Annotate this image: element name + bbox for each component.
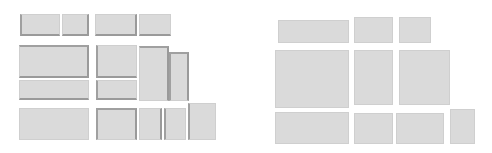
left-tile-2 [62, 14, 89, 36]
left-tile-12 [96, 108, 137, 140]
right-tile-9 [396, 113, 444, 144]
left-tile-4 [139, 14, 171, 36]
right-tile-7 [275, 112, 349, 144]
right-tile-6 [399, 50, 450, 105]
right-tile-10 [450, 109, 475, 144]
left-tile-14 [164, 108, 186, 140]
left-tile-1 [20, 14, 60, 36]
left-tile-13 [139, 108, 162, 140]
right-tile-5 [354, 50, 393, 105]
left-tile-3 [95, 14, 137, 36]
right-tile-1 [278, 20, 349, 43]
left-tile-11 [19, 108, 89, 140]
right-tile-3 [399, 17, 431, 43]
right-tile-8 [354, 113, 393, 144]
left-tile-7 [139, 46, 169, 101]
left-tile-10 [96, 80, 137, 100]
left-tile-6 [96, 45, 137, 78]
left-tile-5 [19, 45, 89, 78]
left-tile-9 [19, 80, 89, 100]
right-tile-4 [275, 50, 349, 108]
right-tile-2 [354, 17, 393, 43]
left-tile-15 [188, 103, 216, 140]
left-tile-8 [169, 52, 189, 101]
